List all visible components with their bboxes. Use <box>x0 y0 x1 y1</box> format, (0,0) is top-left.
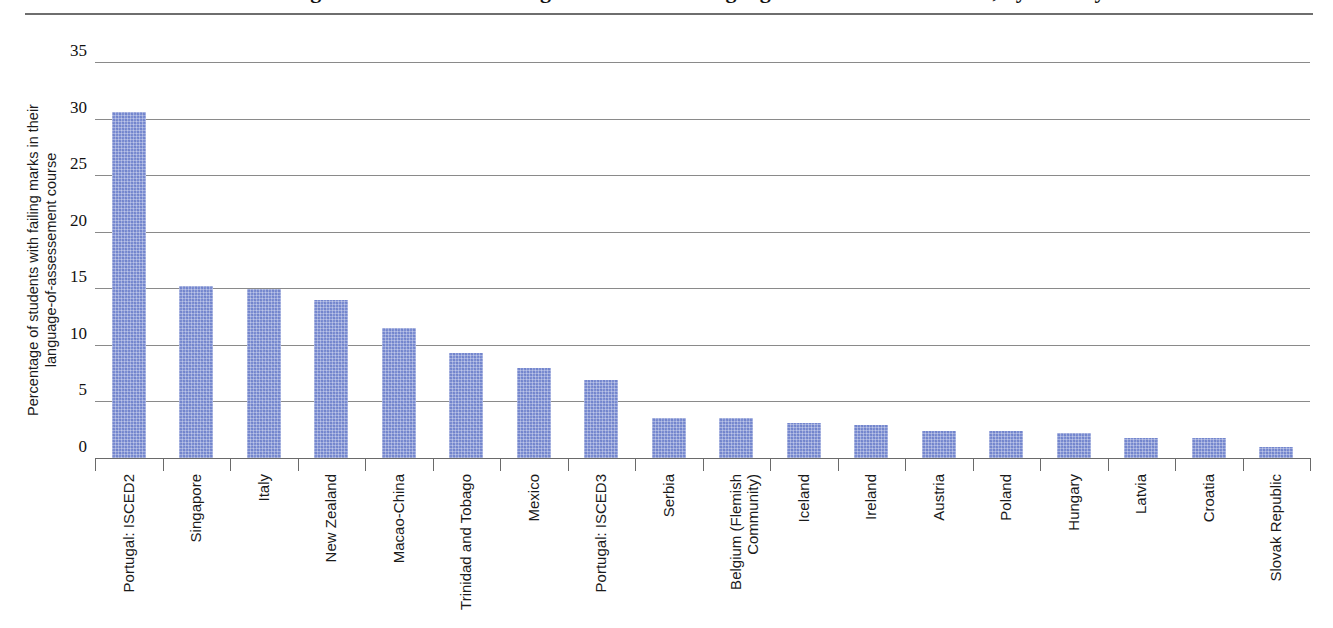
x-axis-tick <box>298 458 299 471</box>
x-axis-category-label: Italy <box>256 474 273 624</box>
bar <box>854 425 888 458</box>
y-axis-tick-label: 35 <box>27 42 87 62</box>
x-axis-tick <box>1040 458 1041 471</box>
bar <box>179 286 213 458</box>
bar <box>1124 438 1158 458</box>
x-axis-category-label: Poland <box>998 474 1015 624</box>
y-axis-tick-label: 0 <box>27 438 87 458</box>
x-axis-tick <box>703 458 704 471</box>
x-axis-tick <box>1310 458 1311 471</box>
x-axis-category-label: Portugal: ISCED3 <box>593 474 610 624</box>
x-axis-ticks <box>95 458 1310 472</box>
x-axis-category-label: Croatia <box>1201 474 1218 624</box>
x-axis-tick <box>1175 458 1176 471</box>
gridline <box>95 232 1310 233</box>
x-axis-tick <box>163 458 164 471</box>
x-axis-category-label: Iceland <box>796 474 813 624</box>
x-axis-category-label: Belgium (Flemish Community) <box>728 474 762 624</box>
x-axis-tick <box>1243 458 1244 471</box>
bar <box>247 289 281 458</box>
bar <box>517 368 551 459</box>
x-axis-category-label: Singapore <box>188 474 205 624</box>
x-axis-tick <box>568 458 569 471</box>
bar <box>989 431 1023 458</box>
x-axis-category-label: Ireland <box>863 474 880 624</box>
x-axis-tick <box>95 458 96 471</box>
chart-title-clipped: Percentage of students with failing mark… <box>0 0 1333 12</box>
bar <box>719 418 753 458</box>
x-axis-tick <box>365 458 366 471</box>
x-axis-category-label: Slovak Republic <box>1268 474 1285 624</box>
bar <box>1057 433 1091 458</box>
gridline <box>95 175 1310 176</box>
x-axis-category-label: Latvia <box>1133 474 1150 624</box>
bar <box>584 380 618 458</box>
x-axis-category-label: Serbia <box>661 474 678 624</box>
bar <box>112 112 146 458</box>
bar <box>382 328 416 458</box>
y-axis-tick-label: 10 <box>27 325 87 345</box>
x-axis-category-label: Trinidad and Tobago <box>458 474 475 624</box>
bar <box>1192 438 1226 458</box>
x-axis-tick <box>1108 458 1109 471</box>
x-axis-tick <box>635 458 636 471</box>
title-divider-rule <box>25 13 1313 15</box>
y-axis-tick-label: 15 <box>27 268 87 288</box>
x-axis-category-label: New Zealand <box>323 474 340 624</box>
y-axis-tick-label: 30 <box>27 99 87 119</box>
y-axis-tick-label: 20 <box>27 212 87 232</box>
y-axis-tick-label: 25 <box>27 155 87 175</box>
x-axis-labels: Portugal: ISCED2SingaporeItalyNew Zealan… <box>95 474 1310 624</box>
x-axis-tick <box>905 458 906 471</box>
x-axis-category-label: Austria <box>931 474 948 624</box>
x-axis-tick <box>433 458 434 471</box>
x-axis-tick <box>500 458 501 471</box>
bar-chart: Percentage of students with failing mark… <box>0 0 1333 628</box>
bar <box>1259 447 1293 458</box>
x-axis-category-label: Macao-China <box>391 474 408 624</box>
x-axis-tick <box>230 458 231 471</box>
bar <box>449 353 483 458</box>
x-axis-category-label: Portugal: ISCED2 <box>121 474 138 624</box>
x-axis-category-label: Mexico <box>526 474 543 624</box>
bar <box>652 418 686 458</box>
x-axis-tick <box>770 458 771 471</box>
x-axis-category-label: Hungary <box>1066 474 1083 624</box>
y-axis-title-text: Percentage of students with failing mark… <box>24 104 60 416</box>
x-axis-tick <box>838 458 839 471</box>
bar <box>314 300 348 458</box>
chart-title-text: Percentage of students with failing mark… <box>0 0 1333 4</box>
y-axis-tick-label: 5 <box>27 381 87 401</box>
gridline <box>95 62 1310 63</box>
bar <box>922 431 956 458</box>
gridline <box>95 119 1310 120</box>
x-axis-tick <box>973 458 974 471</box>
bar <box>787 423 821 458</box>
plot-area: 05101520253035 <box>95 62 1310 458</box>
